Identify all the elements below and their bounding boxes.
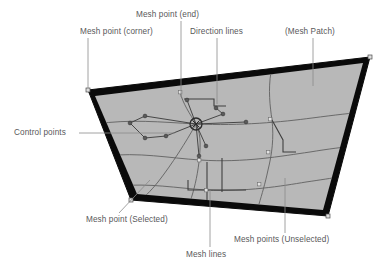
- mesh-point-unselected[interactable]: [95, 123, 98, 126]
- label-mesh-point-corner: Mesh point (corner): [80, 27, 153, 37]
- mesh-diagram-figure: Mesh point (end) Mesh point (corner) Dir…: [0, 0, 384, 279]
- mesh-point-corner[interactable]: [86, 88, 90, 92]
- control-point[interactable]: [185, 98, 189, 102]
- control-point[interactable]: [244, 120, 248, 124]
- label-mesh-point-selected: Mesh point (Selected): [86, 215, 168, 225]
- mesh-point-unselected[interactable]: [205, 189, 208, 192]
- control-point[interactable]: [128, 121, 132, 125]
- control-point[interactable]: [197, 154, 201, 158]
- control-point[interactable]: [143, 136, 147, 140]
- label-mesh-patch: (Mesh Patch): [285, 27, 335, 37]
- mesh-point-unselected[interactable]: [117, 185, 120, 188]
- label-control-points: Control points: [14, 128, 66, 138]
- mesh-point-unselected[interactable]: [198, 159, 201, 162]
- label-direction-lines: Direction lines: [190, 27, 243, 37]
- mesh-point-unselected[interactable]: [362, 111, 365, 114]
- mesh-point-unselected[interactable]: [269, 118, 272, 121]
- label-mesh-point-end: Mesh point (end): [136, 10, 199, 20]
- control-point[interactable]: [204, 144, 208, 148]
- mesh-point-unselected[interactable]: [258, 183, 261, 186]
- control-point[interactable]: [143, 114, 147, 118]
- mesh-point-unselected[interactable]: [103, 155, 106, 158]
- control-point[interactable]: [214, 106, 218, 110]
- mesh-point-corner[interactable]: [326, 214, 330, 218]
- label-mesh-points-unselected: Mesh points (Unselected): [234, 235, 329, 245]
- mesh-point-corner[interactable]: [368, 55, 372, 59]
- control-point[interactable]: [221, 112, 225, 116]
- mesh-point-unselected[interactable]: [267, 151, 270, 154]
- mesh-point-unselected[interactable]: [353, 145, 356, 148]
- control-point[interactable]: [164, 134, 168, 138]
- label-mesh-lines: Mesh lines: [186, 250, 226, 260]
